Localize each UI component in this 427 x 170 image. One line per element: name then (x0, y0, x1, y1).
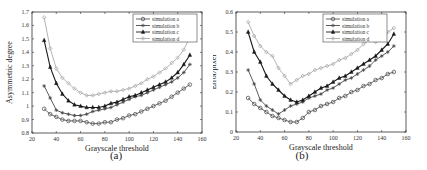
y-tick-label: 0.5 (226, 29, 234, 35)
panel-label-b: (b) (282, 149, 322, 161)
y-tick-label: 0.8 (22, 130, 30, 136)
x-tick-label: 100 (329, 135, 338, 141)
legend-entry: simulation a (342, 16, 370, 22)
legend-entry: simulation b (152, 23, 180, 29)
x-tick-label: 20 (233, 135, 239, 141)
x-tick-label: 40 (53, 136, 59, 142)
y-tick-label: 1.4 (22, 49, 30, 55)
y-tick-label: 0.2 (226, 89, 234, 95)
y-axis-label: Asymmetric degree (5, 41, 14, 104)
y-tick-label: 0.6 (226, 9, 234, 15)
x-tick-label: 80 (306, 135, 312, 141)
x-tick-label: 120 (353, 135, 362, 141)
y-tick-label: 1.6 (22, 22, 30, 28)
chart-panel-b: 2040608010012014016000.10.20.30.40.50.6G… (213, 0, 426, 170)
legend-entry: simulation b (342, 23, 370, 29)
legend-entry: simulation c (342, 29, 370, 35)
line-chart-asymmetric-degree: 204060801001201401600.80.911.11.21.31.41… (0, 0, 213, 170)
y-tick-label: 0.1 (226, 109, 234, 115)
legend-entry: simulation d (342, 36, 370, 42)
x-tick-label: 160 (402, 135, 411, 141)
y-tick-label: 0.3 (226, 69, 234, 75)
panel-label-a: (a) (96, 149, 136, 161)
x-tick-label: 120 (149, 136, 158, 142)
legend-entry: simulation d (152, 36, 180, 42)
x-tick-label: 140 (173, 136, 182, 142)
chart-panel-a: 204060801001201401600.80.911.11.21.31.41… (0, 0, 213, 170)
x-tick-label: 100 (125, 136, 134, 142)
y-tick-label: 0.9 (22, 117, 30, 123)
y-tick-label: 0.4 (226, 49, 234, 55)
line-chart-error-per-pixel: 2040608010012014016000.10.20.30.40.50.6G… (213, 0, 427, 170)
x-tick-label: 60 (78, 136, 84, 142)
y-tick-label: 1.3 (22, 63, 30, 69)
legend-entry: simulation a (152, 16, 180, 22)
y-tick-label: 1.7 (22, 9, 30, 15)
y-tick-label: 0 (230, 129, 233, 135)
legend: simulation asimulation bsimulation csimu… (323, 14, 387, 42)
y-tick-label: 1.5 (22, 36, 30, 42)
x-tick-label: 80 (102, 136, 108, 142)
x-tick-label: 20 (29, 136, 35, 142)
legend-entry: simulation c (152, 29, 180, 35)
y-tick-label: 1.2 (22, 76, 30, 82)
x-tick-label: 160 (198, 136, 207, 142)
y-tick-label: 1.1 (22, 90, 30, 96)
x-tick-label: 60 (282, 135, 288, 141)
y-axis-label: Error/pixel (213, 54, 218, 90)
x-tick-label: 40 (257, 135, 263, 141)
y-tick-label: 1 (26, 103, 29, 109)
legend: simulation asimulation bsimulation csimu… (133, 14, 197, 42)
x-tick-label: 140 (377, 135, 386, 141)
